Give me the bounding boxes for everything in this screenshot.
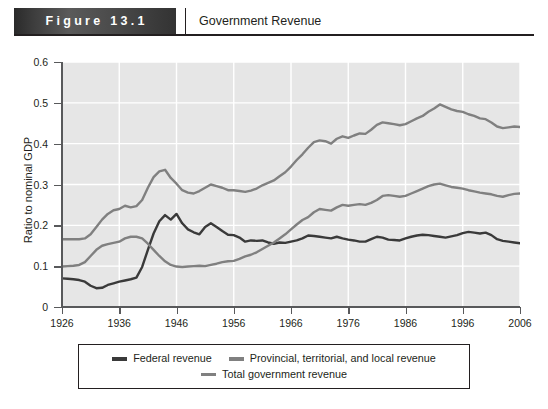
y-tick-mark bbox=[54, 144, 61, 145]
x-tick-label: 1946 bbox=[165, 317, 188, 329]
y-axis-line bbox=[61, 62, 63, 307]
legend-swatch-icon bbox=[112, 357, 127, 360]
y-tick-mark bbox=[54, 103, 61, 104]
legend-label: Provincial, territorial, and local reven… bbox=[250, 351, 436, 367]
y-tick-mark bbox=[54, 62, 61, 63]
y-tick-label: 0 bbox=[0, 301, 48, 313]
x-tick-mark bbox=[234, 307, 235, 314]
y-tick-mark bbox=[54, 225, 61, 226]
y-tick-mark bbox=[54, 185, 61, 186]
header-rule bbox=[14, 34, 534, 36]
figure-title: Government Revenue bbox=[186, 8, 321, 34]
y-axis-title: Ratio to nominal GDP bbox=[22, 110, 34, 270]
legend-label: Federal revenue bbox=[133, 351, 212, 367]
x-tick-label: 1936 bbox=[108, 317, 131, 329]
chart-container: 00.10.20.30.40.50.6 19261936194619561966… bbox=[0, 46, 548, 346]
legend-label: Total government revenue bbox=[222, 367, 347, 383]
x-tick-mark bbox=[119, 307, 120, 314]
legend-row-1: Federal revenue Provincial, territorial,… bbox=[79, 351, 469, 367]
x-tick-label: 1966 bbox=[279, 317, 302, 329]
figure-number-label: Figure 13.1 bbox=[42, 14, 148, 28]
legend-swatch-icon bbox=[201, 373, 216, 376]
plot-area bbox=[62, 62, 520, 307]
x-tick-mark bbox=[177, 307, 178, 314]
x-tick-label: 1976 bbox=[337, 317, 360, 329]
x-tick-label: 1986 bbox=[394, 317, 417, 329]
legend-item-provincial-revenue: Provincial, territorial, and local reven… bbox=[229, 351, 436, 367]
x-tick-label: 1956 bbox=[222, 317, 245, 329]
x-tick-mark bbox=[62, 307, 63, 314]
gridlines bbox=[62, 62, 520, 307]
y-tick-label: 0.6 bbox=[0, 56, 48, 68]
y-tick-mark bbox=[54, 307, 61, 308]
x-tick-mark bbox=[520, 307, 521, 314]
y-tick-mark bbox=[54, 266, 61, 267]
x-tick-mark bbox=[291, 307, 292, 314]
x-tick-label: 1996 bbox=[451, 317, 474, 329]
legend-row-2: Total government revenue bbox=[79, 367, 469, 383]
x-tick-label: 1926 bbox=[50, 317, 73, 329]
chart-legend: Federal revenue Provincial, territorial,… bbox=[78, 344, 470, 389]
x-tick-mark bbox=[406, 307, 407, 314]
x-tick-label: 2006 bbox=[508, 317, 531, 329]
legend-swatch-icon bbox=[229, 357, 244, 360]
y-tick-label: 0.5 bbox=[0, 97, 48, 109]
x-tick-mark bbox=[348, 307, 349, 314]
figure-number-band: Figure 13.1 bbox=[14, 8, 176, 34]
legend-item-total-revenue: Total government revenue bbox=[201, 367, 347, 383]
legend-item-federal-revenue: Federal revenue bbox=[112, 351, 212, 367]
x-tick-mark bbox=[463, 307, 464, 314]
chart-svg bbox=[62, 62, 520, 307]
figure-header: Figure 13.1 Government Revenue bbox=[14, 8, 534, 34]
